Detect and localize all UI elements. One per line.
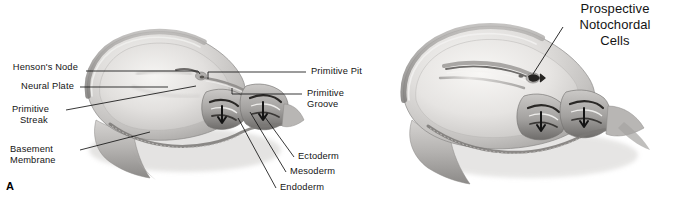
cut-face-block-near bbox=[202, 89, 246, 129]
label-basement-membrane-line1: Basement bbox=[10, 144, 53, 155]
figure-embryo-gastrulation: Henson's Node Neural Plate Primitive Str… bbox=[0, 0, 693, 203]
label-endoderm: Endoderm bbox=[280, 182, 324, 193]
label-basement-membrane-line2: Membrane bbox=[10, 155, 56, 166]
label-neural-plate: Neural Plate bbox=[0, 81, 74, 92]
label-primitive-groove-line1: Primitive bbox=[307, 88, 344, 99]
label-hensons-node: Henson's Node bbox=[0, 62, 78, 73]
notochordal-pit bbox=[518, 74, 523, 78]
label-primitive-streak-line1: Primitive bbox=[12, 104, 49, 115]
label-prospective-line1: Prospective bbox=[540, 1, 690, 17]
label-primitive-pit: Primitive Pit bbox=[311, 66, 362, 77]
label-primitive-groove-line2: Groove bbox=[307, 99, 338, 110]
label-primitive-streak-line2: Streak bbox=[20, 115, 48, 126]
panel-letter-a: A bbox=[6, 180, 14, 192]
label-prospective-line2: Notochordal bbox=[540, 17, 690, 33]
primitive-pit bbox=[200, 75, 205, 78]
label-prospective-line3: Cells bbox=[540, 33, 690, 49]
label-mesoderm: Mesoderm bbox=[290, 166, 335, 177]
label-ectoderm: Ectoderm bbox=[298, 151, 339, 162]
